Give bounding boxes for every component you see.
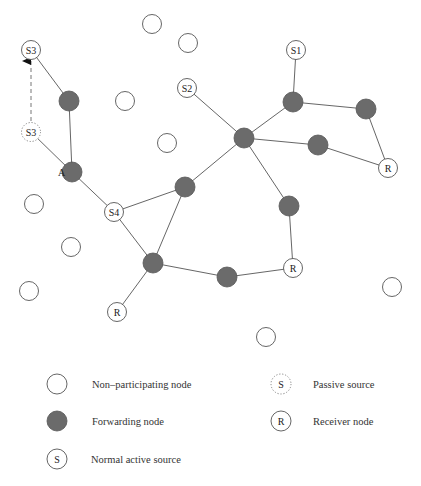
node-label: S3 <box>26 127 37 138</box>
node-label: S <box>278 379 284 390</box>
node-S1: S1 <box>287 41 306 60</box>
non-participating-circle-icon <box>20 282 39 301</box>
legend-item-receiver: RReceiver node <box>271 411 374 431</box>
node-f4 <box>308 135 328 155</box>
legend-label: Passive source <box>313 379 375 390</box>
edge-S4-f5 <box>114 187 185 212</box>
node-label: R <box>290 263 297 274</box>
non-participating-legend-symbol <box>47 374 67 394</box>
forwarding-circle-icon <box>308 135 328 155</box>
node-np1 <box>143 15 162 34</box>
node-S3: S3 <box>22 41 41 60</box>
node-label: S3 <box>26 45 37 56</box>
legend-item-non-participating: Non–participating node <box>47 374 192 394</box>
node-side-labels: A <box>58 167 66 178</box>
nodes: S3S3S2S1S4RRR <box>20 15 402 347</box>
node-f8 <box>217 267 237 287</box>
node-f2 <box>283 92 303 112</box>
edge-hub-f4 <box>244 138 318 145</box>
legend-label: Non–participating node <box>92 379 192 390</box>
non-participating-circle-icon <box>257 328 276 347</box>
receiver-legend-symbol: R <box>271 411 291 431</box>
edge-f2-f3 <box>293 102 366 109</box>
passive-source-legend-symbol: S <box>271 374 291 394</box>
non-participating-circle-icon <box>143 15 162 34</box>
forwarding-circle-icon <box>217 267 237 287</box>
node-np4 <box>158 134 177 153</box>
legend-item-active-source: SNormal active source <box>47 449 181 469</box>
node-f6 <box>279 196 299 216</box>
forwarding-circle-icon <box>279 196 299 216</box>
forwarding-circle-icon <box>47 411 67 431</box>
node-np5 <box>25 195 44 214</box>
node-f5 <box>175 177 195 197</box>
node-label: S <box>54 454 60 465</box>
edge-f1-A <box>69 101 72 172</box>
multicast-network-diagram: S3S3S2S1S4RRR A Non–participating nodeFo… <box>0 0 421 486</box>
forwarding-circle-icon <box>356 99 376 119</box>
edge-f7-f8 <box>153 263 227 277</box>
node-np7 <box>20 282 39 301</box>
node-f1 <box>59 91 79 111</box>
forwarding-circle-icon <box>143 253 163 273</box>
node-label: R <box>278 416 285 427</box>
node-f7 <box>143 253 163 273</box>
node-np8 <box>383 278 402 297</box>
node-label: S1 <box>291 45 302 56</box>
node-label: R <box>114 307 121 318</box>
node-label: R <box>385 163 392 174</box>
non-participating-circle-icon <box>25 195 44 214</box>
active-source-legend-symbol: S <box>47 449 67 469</box>
edge-hub-f5 <box>185 138 244 187</box>
legend-label: Normal active source <box>91 454 181 465</box>
forwarding-circle-icon <box>234 128 254 148</box>
edge-S2-hub <box>187 88 244 138</box>
legend: Non–participating nodeForwarding nodeSNo… <box>47 374 375 469</box>
node-np2 <box>179 34 198 53</box>
edge-f4-R1 <box>318 145 388 168</box>
forwarding-circle-icon <box>59 91 79 111</box>
node-np6 <box>62 238 81 257</box>
forwarding-circle-icon <box>283 92 303 112</box>
edge-f5-f7 <box>153 187 185 263</box>
node-S4: S4 <box>105 203 124 222</box>
node-np3 <box>116 92 135 111</box>
node-S3p: S3 <box>22 123 41 142</box>
node-R1: R <box>379 159 398 178</box>
legend-item-forwarding: Forwarding node <box>47 411 164 431</box>
node-f3 <box>356 99 376 119</box>
node-R2: R <box>284 259 303 278</box>
forwarding-circle-icon <box>175 177 195 197</box>
node-label: S2 <box>182 83 193 94</box>
legend-label: Forwarding node <box>92 416 164 427</box>
node-np9 <box>257 328 276 347</box>
node-label-a: A <box>58 167 66 178</box>
non-participating-circle-icon <box>383 278 402 297</box>
non-participating-circle-icon <box>116 92 135 111</box>
non-participating-circle-icon <box>62 238 81 257</box>
non-participating-circle-icon <box>179 34 198 53</box>
forwarding-legend-symbol <box>47 411 67 431</box>
edge-hub-f6 <box>244 138 289 206</box>
node-R3: R <box>108 303 127 322</box>
legend-label: Receiver node <box>313 416 374 427</box>
node-label: S4 <box>109 207 120 218</box>
legend-item-passive-source: SPassive source <box>271 374 375 394</box>
non-participating-circle-icon <box>47 374 67 394</box>
node-S2: S2 <box>178 79 197 98</box>
edges <box>31 50 388 312</box>
non-participating-circle-icon <box>158 134 177 153</box>
node-hub <box>234 128 254 148</box>
